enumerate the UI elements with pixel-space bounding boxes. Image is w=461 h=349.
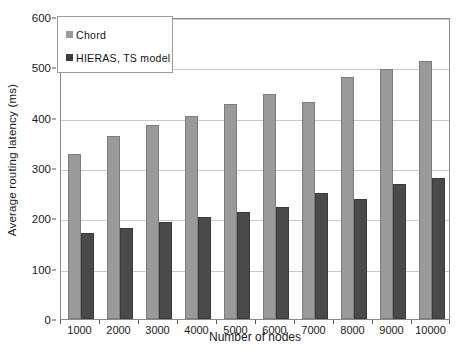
y-axis-tick-mark — [52, 68, 56, 69]
y-axis-tick-label: 400 — [32, 113, 51, 125]
bar — [341, 77, 354, 319]
bar-chart: Average routing latency (ms) 01002003004… — [0, 0, 461, 349]
y-axis-title-text: Average routing latency (ms) — [6, 84, 18, 236]
bar-group — [412, 19, 450, 319]
y-axis-tick-mark — [52, 320, 56, 321]
y-axis-tick-mark — [52, 169, 56, 170]
chart-legend: Chord HIERAS, TS model — [57, 16, 173, 73]
legend-swatch-hieras-icon — [66, 54, 73, 61]
y-axis-tick-label: 200 — [32, 213, 51, 225]
bar — [81, 233, 94, 319]
bar — [146, 125, 159, 319]
y-axis-tick-labels: 0100200300400500600 — [24, 18, 56, 320]
y-axis-tick-mark — [52, 118, 56, 119]
y-axis-tick-label: 0 — [45, 314, 51, 326]
legend-item-hieras: HIERAS, TS model — [66, 47, 172, 68]
y-axis-tick-label: 600 — [32, 12, 51, 24]
bar — [237, 212, 250, 319]
legend-label-hieras: HIERAS, TS model — [76, 52, 170, 64]
bar — [393, 184, 406, 319]
bar — [276, 207, 289, 319]
bar — [224, 104, 237, 319]
legend-swatch-chord-icon — [66, 31, 73, 38]
bar — [120, 228, 133, 319]
y-axis-tick-label: 500 — [32, 62, 51, 74]
bar — [302, 102, 315, 319]
bar — [159, 222, 172, 319]
y-axis-tick-mark — [52, 219, 56, 220]
bar — [315, 193, 328, 319]
bar — [68, 154, 81, 319]
legend-item-chord: Chord — [66, 24, 172, 45]
bar-group — [256, 19, 295, 319]
bar-group — [178, 19, 217, 319]
bar-group — [373, 19, 412, 319]
y-axis-tick-mark — [52, 18, 56, 19]
bar — [419, 61, 432, 319]
y-axis-tick-label: 300 — [32, 163, 51, 175]
y-axis-tick-label: 100 — [32, 264, 51, 276]
y-axis-title: Average routing latency (ms) — [0, 0, 24, 320]
bar-group — [334, 19, 373, 319]
bar — [432, 178, 445, 319]
bar — [354, 199, 367, 319]
bar — [198, 217, 211, 319]
bar-group — [295, 19, 334, 319]
bar — [380, 69, 393, 319]
bar — [263, 94, 276, 319]
bar — [185, 116, 198, 319]
x-axis-title: Number of nodes — [60, 330, 450, 344]
bar — [107, 136, 120, 319]
y-axis-tick-mark — [52, 269, 56, 270]
bar-group — [217, 19, 256, 319]
legend-label-chord: Chord — [76, 29, 106, 41]
